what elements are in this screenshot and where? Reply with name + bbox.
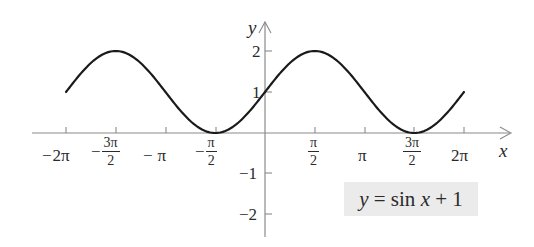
x-tick-label-pi2: π 2 — [308, 136, 319, 168]
equation-y: y — [359, 187, 368, 212]
equation-label-box: y = sin x + 1 — [344, 182, 478, 216]
x-tick-label-negpi: − π — [143, 146, 166, 166]
tick-text: 2π — [451, 146, 468, 166]
minus-sign: − — [42, 146, 52, 166]
y-tick-label-2: 2 — [252, 43, 261, 60]
denominator: 2 — [208, 152, 215, 168]
y-tick-label-neg2: −2 — [239, 206, 257, 223]
equation-x: x — [421, 187, 430, 212]
x-tick-label-neg2pi: − 2π — [42, 146, 70, 166]
tick-text: π — [158, 146, 167, 166]
y-axis-label: y — [248, 18, 256, 37]
numerator: π — [308, 136, 319, 152]
denominator: 2 — [409, 152, 416, 168]
tick-text: 2π — [53, 146, 70, 166]
numerator: 3π — [102, 136, 120, 152]
tick-text: π — [358, 146, 367, 166]
fraction: π 2 — [308, 136, 319, 168]
numerator: π — [206, 136, 217, 152]
numerator: 3π — [403, 136, 421, 152]
equation-rest: + 1 — [430, 187, 463, 212]
fraction: π 2 — [206, 136, 217, 168]
equation-middle: = sin — [369, 187, 421, 212]
y-tick-label-1: 1 — [252, 84, 261, 101]
x-tick-label-negpi2: − π 2 — [195, 136, 217, 168]
y-tick-label-neg1: −1 — [239, 165, 257, 182]
x-tick-label-3pi2: 3π 2 — [403, 136, 421, 168]
fraction: 3π 2 — [102, 136, 120, 168]
fraction: 3π 2 — [403, 136, 421, 168]
minus-sign: − — [143, 146, 153, 166]
x-tick-label-pi: π — [358, 146, 367, 166]
denominator: 2 — [107, 152, 114, 168]
x-tick-label-neg3pi2: − 3π 2 — [91, 136, 120, 168]
x-tick-label-2pi: 2π — [451, 146, 468, 166]
x-axis-label: x — [499, 141, 507, 160]
minus-sign: − — [91, 142, 101, 162]
denominator: 2 — [310, 152, 317, 168]
minus-sign: − — [195, 142, 205, 162]
